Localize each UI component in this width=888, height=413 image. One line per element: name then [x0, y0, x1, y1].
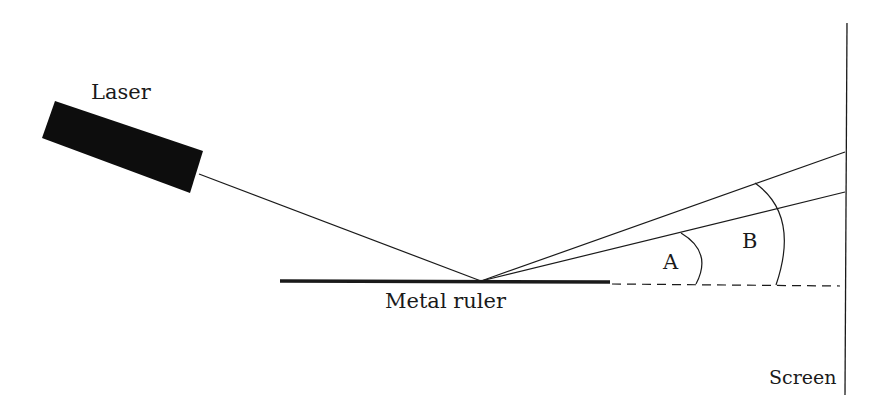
- angle-b-arc: [755, 183, 784, 285]
- screen-label: Screen: [769, 366, 836, 388]
- angle-b-label: B: [742, 229, 757, 253]
- ruler-label: Metal ruler: [385, 289, 507, 313]
- laser-reflection-diagram: Laser Metal ruler A B Screen: [0, 0, 888, 413]
- laser-label: Laser: [91, 80, 152, 104]
- reference-dashed-line: [612, 284, 840, 286]
- laser-body: [42, 101, 203, 193]
- incident-beam: [199, 174, 481, 281]
- screen-line: [845, 23, 847, 395]
- angle-a-label: A: [662, 250, 679, 274]
- angle-a-arc: [681, 233, 702, 284]
- metal-ruler: [280, 281, 610, 282]
